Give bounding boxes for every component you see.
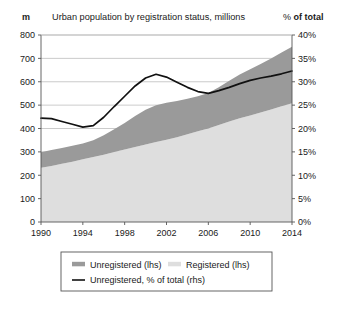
svg-text:2006: 2006 bbox=[198, 228, 218, 238]
svg-text:500: 500 bbox=[20, 100, 35, 110]
svg-text:Unregistered, % of total (rhs): Unregistered, % of total (rhs) bbox=[90, 275, 205, 285]
left-axis-tick-labels: 0100200300400500600700800 bbox=[20, 30, 41, 227]
svg-text:25%: 25% bbox=[298, 100, 316, 110]
svg-text:40%: 40% bbox=[298, 30, 316, 40]
svg-text:400: 400 bbox=[20, 124, 35, 134]
svg-text:0%: 0% bbox=[298, 217, 311, 227]
svg-text:Unregistered (lhs): Unregistered (lhs) bbox=[90, 260, 162, 270]
svg-text:700: 700 bbox=[20, 54, 35, 64]
svg-text:2002: 2002 bbox=[156, 228, 176, 238]
svg-text:600: 600 bbox=[20, 77, 35, 87]
legend: Unregistered (lhs)Registered (lhs)Unregi… bbox=[61, 252, 272, 291]
svg-text:1990: 1990 bbox=[31, 228, 51, 238]
svg-text:2010: 2010 bbox=[240, 228, 260, 238]
svg-text:10%: 10% bbox=[298, 171, 316, 181]
svg-text:20%: 20% bbox=[298, 124, 316, 134]
svg-text:2014: 2014 bbox=[282, 228, 302, 238]
right-axis-unit-text: of total bbox=[291, 12, 324, 22]
svg-text:200: 200 bbox=[20, 171, 35, 181]
svg-text:1998: 1998 bbox=[115, 228, 135, 238]
right-axis-tick-labels: 0%5%10%15%20%25%30%35%40% bbox=[292, 30, 316, 227]
svg-text:35%: 35% bbox=[298, 54, 316, 64]
svg-text:Registered (lhs): Registered (lhs) bbox=[186, 260, 250, 270]
chart-plot: 0100200300400500600700800 0%5%10%15%20%2… bbox=[0, 0, 346, 309]
svg-text:800: 800 bbox=[20, 30, 35, 40]
right-axis-percent-symbol: % bbox=[283, 12, 291, 22]
svg-text:5%: 5% bbox=[298, 194, 311, 204]
svg-text:15%: 15% bbox=[298, 147, 316, 157]
svg-text:0: 0 bbox=[30, 217, 35, 227]
svg-text:300: 300 bbox=[20, 147, 35, 157]
svg-text:100: 100 bbox=[20, 194, 35, 204]
left-axis-unit-label: m bbox=[22, 12, 30, 22]
chart-title: Urban population by registration status,… bbox=[52, 12, 245, 22]
x-axis-tick-labels: 1990199419982002200620102014 bbox=[31, 222, 302, 238]
right-axis-unit-label: % of total bbox=[283, 12, 324, 22]
svg-text:1994: 1994 bbox=[73, 228, 93, 238]
svg-text:30%: 30% bbox=[298, 77, 316, 87]
chart-container: m Urban population by registration statu… bbox=[0, 0, 346, 309]
